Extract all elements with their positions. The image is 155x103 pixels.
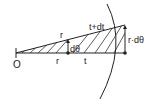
angle-label: dθ xyxy=(70,44,80,54)
outer-point xyxy=(123,51,127,55)
upper-t-label: t+dt xyxy=(89,22,105,32)
upper-r-label: r xyxy=(60,30,63,40)
origin-label: O xyxy=(13,59,21,70)
arc-length-label: r·dθ xyxy=(128,35,144,45)
lower-t-label: t xyxy=(84,56,87,66)
lower-r-label: r xyxy=(56,56,59,66)
arc-curve xyxy=(100,4,116,99)
sector-diagram: O r t+dt dθ r t r·dθ xyxy=(0,0,155,103)
